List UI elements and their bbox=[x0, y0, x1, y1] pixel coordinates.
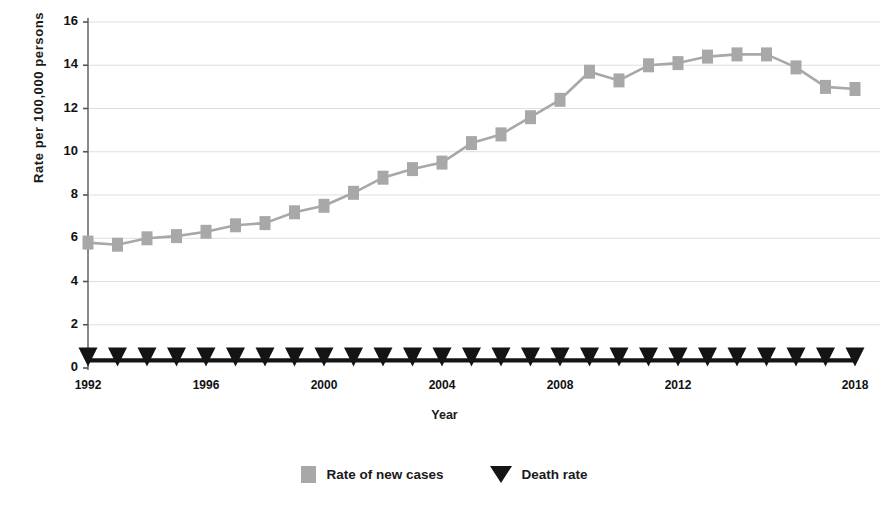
data-point-square bbox=[673, 56, 684, 70]
data-point-square bbox=[289, 205, 300, 219]
data-point-square bbox=[437, 156, 448, 170]
data-point-triangle bbox=[197, 347, 216, 366]
data-point-triangle bbox=[315, 347, 334, 366]
data-point-square bbox=[83, 236, 94, 250]
data-point-triangle bbox=[167, 347, 186, 366]
plot-area bbox=[0, 0, 889, 515]
data-point-square bbox=[112, 238, 123, 252]
data-point-square bbox=[525, 110, 536, 124]
x-tick-label: 2000 bbox=[311, 378, 338, 392]
triangle-down-icon bbox=[490, 466, 512, 483]
data-point-triangle bbox=[462, 347, 481, 366]
data-point-square bbox=[732, 47, 743, 61]
data-point-square bbox=[584, 65, 595, 79]
x-tick-label: 2018 bbox=[842, 378, 869, 392]
chart-figure: Rate per 100,000 persons 0246810121416 1… bbox=[0, 0, 889, 515]
data-point-triangle bbox=[728, 347, 747, 366]
data-point-triangle bbox=[138, 347, 157, 366]
data-point-square bbox=[643, 58, 654, 72]
data-point-square bbox=[201, 225, 212, 239]
data-point-square bbox=[850, 82, 861, 96]
data-point-triangle bbox=[433, 347, 452, 366]
data-point-triangle bbox=[374, 347, 393, 366]
data-point-square bbox=[761, 47, 772, 61]
data-point-square bbox=[791, 60, 802, 74]
data-point-triangle bbox=[639, 347, 658, 366]
data-point-square bbox=[466, 136, 477, 150]
data-point-triangle bbox=[226, 347, 245, 366]
data-point-square bbox=[407, 162, 418, 176]
x-tick-label: 1992 bbox=[75, 378, 102, 392]
data-point-triangle bbox=[846, 347, 865, 366]
data-point-triangle bbox=[344, 347, 363, 366]
data-point-triangle bbox=[580, 347, 599, 366]
chart-legend: Rate of new cases Death rate bbox=[0, 466, 889, 483]
data-point-triangle bbox=[521, 347, 540, 366]
data-point-triangle bbox=[610, 347, 629, 366]
x-tick-label: 2004 bbox=[429, 378, 456, 392]
data-point-triangle bbox=[492, 347, 511, 366]
data-point-square bbox=[319, 199, 330, 213]
data-point-triangle bbox=[757, 347, 776, 366]
data-point-square bbox=[142, 231, 153, 245]
square-icon bbox=[301, 466, 316, 483]
data-point-square bbox=[820, 80, 831, 94]
data-point-square bbox=[230, 218, 241, 232]
data-point-triangle bbox=[108, 347, 127, 366]
data-point-triangle bbox=[669, 347, 688, 366]
data-point-triangle bbox=[256, 347, 275, 366]
data-point-square bbox=[496, 127, 507, 141]
data-point-square bbox=[614, 73, 625, 87]
data-point-square bbox=[555, 93, 566, 107]
legend-item-rate-of-new-cases: Rate of new cases bbox=[301, 466, 443, 483]
data-point-square bbox=[378, 171, 389, 185]
data-point-square bbox=[171, 229, 182, 243]
data-point-triangle bbox=[79, 347, 98, 366]
x-tick-label: 1996 bbox=[193, 378, 220, 392]
x-tick-label: 2008 bbox=[547, 378, 574, 392]
data-point-triangle bbox=[285, 347, 304, 366]
x-tick-label: 2012 bbox=[665, 378, 692, 392]
legend-label-death-rate: Death rate bbox=[522, 467, 588, 482]
x-axis-title: Year bbox=[0, 408, 889, 422]
data-point-triangle bbox=[698, 347, 717, 366]
data-point-square bbox=[348, 186, 359, 200]
data-point-triangle bbox=[403, 347, 422, 366]
legend-item-death-rate: Death rate bbox=[490, 466, 588, 483]
data-point-square bbox=[702, 50, 713, 64]
data-point-triangle bbox=[551, 347, 570, 366]
data-point-triangle bbox=[816, 347, 835, 366]
legend-label-rate-of-new-cases: Rate of new cases bbox=[326, 467, 443, 482]
data-point-square bbox=[260, 216, 271, 230]
data-point-triangle bbox=[787, 347, 806, 366]
